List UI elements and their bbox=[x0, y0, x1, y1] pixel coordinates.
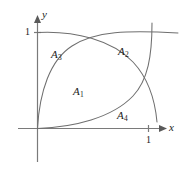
region-label-a2: A2 bbox=[118, 46, 128, 57]
x-axis-arrowhead bbox=[159, 125, 167, 132]
region-label-a4-sub: 4 bbox=[124, 114, 128, 123]
region-label-a3: A3 bbox=[51, 49, 61, 60]
region-label-a1: A1 bbox=[73, 86, 83, 97]
x-axis-tick-label-1: 1 bbox=[146, 135, 151, 145]
y-axis-tick-label-1: 1 bbox=[25, 27, 30, 37]
region-label-a3-base: A bbox=[51, 48, 58, 60]
region-label-a2-sub: 2 bbox=[125, 50, 129, 59]
region-label-a1-base: A bbox=[73, 85, 80, 97]
region-label-a2-base: A bbox=[118, 45, 125, 57]
y-axis-arrowhead bbox=[34, 15, 41, 23]
x-axis-label: x bbox=[169, 122, 174, 133]
curve-top-left-arc bbox=[38, 32, 158, 122]
region-label-a3-sub: 3 bbox=[58, 53, 62, 62]
region-label-a4: A4 bbox=[117, 110, 127, 121]
figure-container: y x 1 1 A1 A2 A3 A4 bbox=[0, 0, 182, 172]
region-label-a4-base: A bbox=[117, 109, 124, 121]
y-axis-label: y bbox=[42, 9, 47, 20]
region-label-a1-sub: 1 bbox=[80, 90, 84, 99]
